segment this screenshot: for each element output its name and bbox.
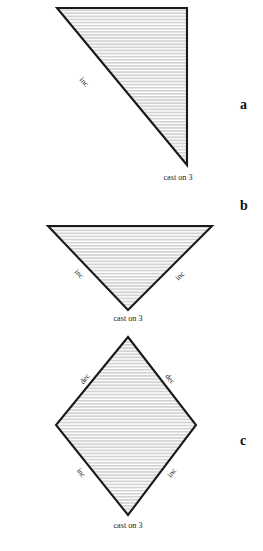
panel-b-cast-on-label: cast on 3 xyxy=(113,315,142,323)
panel-letter-a: a xyxy=(240,98,247,112)
panel-letter-b: b xyxy=(240,199,248,213)
panel-a-shape xyxy=(50,2,195,174)
panel-b-shape xyxy=(42,220,220,318)
panel-c-shape xyxy=(50,331,202,521)
panel-c-cast-on-label: cast on 3 xyxy=(113,522,142,530)
panel-a-cast-on-label: cast on 3 xyxy=(163,174,192,182)
figure-canvas xyxy=(0,0,263,551)
knitting-shapes-figure: inc cast on 3 a inc inc cast on 3 b dec … xyxy=(0,0,263,551)
panel-letter-c: c xyxy=(240,434,246,448)
